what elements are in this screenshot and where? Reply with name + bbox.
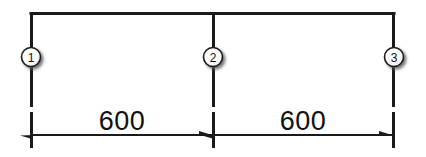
dimension-bay-2: 600 xyxy=(215,106,392,136)
grid-bubble-3-label: 3 xyxy=(391,51,398,65)
cad-drawing-svg: 600 600 1 2 3 xyxy=(0,0,426,157)
grid-bubble-2-label: 2 xyxy=(210,51,217,65)
grid-bubble-2[interactable]: 2 xyxy=(204,48,223,67)
dimension-bay-1: 600 xyxy=(33,106,212,136)
grid-bubble-1[interactable]: 1 xyxy=(22,48,41,67)
grid-bubble-1-label: 1 xyxy=(28,51,35,65)
dimension-bay-1-label: 600 xyxy=(99,106,146,136)
cad-drawing-canvas: 600 600 1 2 3 xyxy=(0,0,426,157)
grid-bubble-3[interactable]: 3 xyxy=(385,48,404,67)
dimension-bay-2-label: 600 xyxy=(280,106,327,136)
